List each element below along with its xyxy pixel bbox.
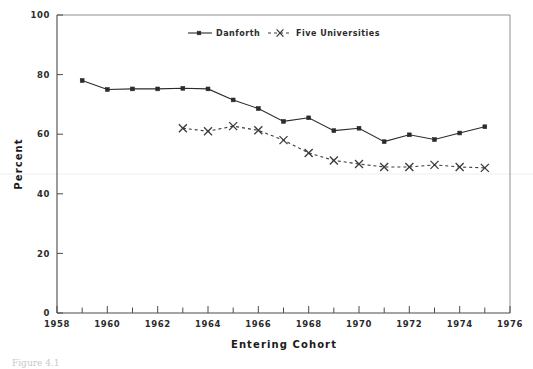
data-point-marker [305, 149, 313, 157]
legend-label-five-universities: Five Universities [296, 29, 380, 38]
data-point-marker [357, 126, 361, 130]
series-line [82, 81, 485, 142]
x-tick-label: 1964 [195, 319, 221, 329]
chart-legend: Danforth Five Universities [188, 29, 380, 38]
x-axis-tick-labels: 1958 1960 1962 1964 1966 1968 1970 1972 … [44, 319, 523, 329]
x-tick-label: 1966 [245, 319, 271, 329]
data-point-marker [280, 136, 288, 144]
y-axis-tick-labels: 0 20 40 60 80 100 [30, 10, 50, 318]
y-tick-label: 100 [30, 10, 50, 20]
x-tick-label: 1960 [94, 319, 120, 329]
data-point-marker [80, 79, 84, 83]
data-point-marker [332, 129, 336, 133]
y-tick-label: 0 [43, 308, 50, 318]
y-tick-label: 20 [37, 249, 50, 259]
data-point-marker [181, 86, 185, 90]
x-tick-label: 1962 [145, 319, 171, 329]
data-point-marker [256, 107, 260, 111]
data-point-marker [407, 133, 411, 137]
x-axis-title: Entering Cohort [231, 339, 337, 350]
data-point-marker [156, 87, 160, 91]
data-series-layer [80, 79, 489, 172]
data-point-marker [456, 163, 464, 171]
y-tick-label: 40 [37, 189, 50, 199]
x-tick-label: 1974 [447, 319, 473, 329]
y-tick-label: 60 [37, 129, 50, 139]
x-tick-label: 1972 [396, 319, 422, 329]
data-point-marker [131, 87, 135, 91]
data-point-marker [229, 122, 237, 130]
data-point-marker [431, 161, 439, 169]
series-danforth [80, 79, 486, 144]
line-chart: 0 20 40 60 80 100 Percent [0, 0, 533, 369]
x-tick-label: 1968 [296, 319, 322, 329]
data-point-marker [458, 131, 462, 135]
figure-caption: Figure 4.1 [12, 358, 59, 368]
x-tick-label: 1976 [497, 319, 523, 329]
data-point-marker [105, 88, 109, 92]
data-point-marker [433, 138, 437, 142]
data-point-marker [307, 116, 311, 120]
data-point-marker [206, 87, 210, 91]
x-axis-minor-ticks [82, 308, 485, 314]
data-point-marker [382, 140, 386, 144]
x-tick-label: 1958 [44, 319, 70, 329]
legend-label-danforth: Danforth [216, 29, 260, 38]
data-point-marker [330, 156, 338, 164]
data-point-marker [204, 127, 212, 135]
data-point-marker [483, 125, 487, 129]
data-point-marker [231, 98, 235, 102]
legend-marker-square [197, 31, 201, 35]
figure-container: 0 20 40 60 80 100 Percent [0, 0, 533, 369]
x-tick-label: 1970 [346, 319, 372, 329]
y-axis-ticks [57, 15, 63, 313]
y-axis-title: Percent [13, 138, 24, 189]
data-point-marker [282, 119, 286, 123]
y-tick-label: 80 [37, 70, 50, 80]
